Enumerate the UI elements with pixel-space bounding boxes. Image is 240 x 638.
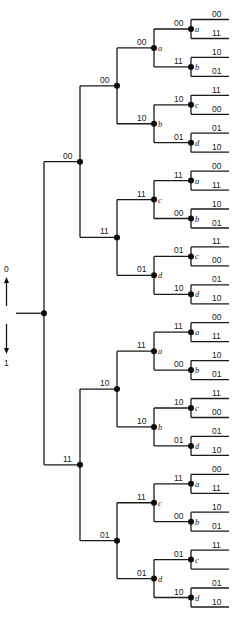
branch-label: 10: [174, 283, 184, 293]
leaf-label: 11: [212, 180, 221, 190]
branch-label: 10: [174, 587, 184, 597]
leaf-label: 01: [212, 426, 222, 436]
root-node: [41, 310, 47, 316]
branch-label: 01: [100, 530, 110, 540]
level4-node: [188, 291, 194, 297]
leaf-label: 10: [212, 597, 222, 607]
branch-label: 00: [174, 359, 184, 369]
state-label: b: [195, 517, 199, 527]
branch-label: 00: [174, 511, 184, 521]
branch-label: 01: [174, 549, 184, 559]
branch-label: 00: [137, 37, 147, 47]
level3-node: [151, 500, 157, 506]
leaf-label: 01: [212, 66, 222, 76]
leaf-label: 01: [212, 369, 222, 379]
level4-node: [188, 367, 194, 373]
down-arrowhead-icon: [4, 348, 9, 354]
leaf-label: 10: [212, 350, 222, 360]
state-label: a: [195, 479, 199, 489]
branch-label: 11: [174, 56, 183, 66]
branch-label: 11: [137, 189, 146, 199]
branch-label: 00: [174, 208, 184, 218]
leaf-label: 00: [212, 9, 222, 19]
leaf-label: 01: [212, 578, 222, 588]
leaf-label: 01: [212, 123, 222, 133]
branch-label: 10: [137, 416, 147, 426]
level1-node: [77, 159, 83, 165]
state-label: d: [195, 289, 200, 299]
branch-label: 00: [100, 75, 110, 85]
level3-node: [151, 197, 157, 203]
level2-node: [114, 386, 120, 392]
branch-label: 11: [63, 454, 72, 464]
state-label: d: [195, 441, 200, 451]
leaf-label: 11: [212, 85, 221, 95]
leaf-label: 00: [212, 407, 222, 417]
branch-label: 10: [100, 378, 110, 388]
level2-node: [114, 234, 120, 240]
state-label: a: [158, 346, 162, 356]
level4-node: [188, 140, 194, 146]
state-label: a: [195, 327, 199, 337]
leaf-label: 00: [212, 161, 222, 171]
level4-node: [188, 329, 194, 335]
level1-node: [77, 462, 83, 468]
leaf-label: 11: [212, 483, 221, 493]
state-label: d: [195, 138, 200, 148]
leaf-label: 11: [212, 236, 221, 246]
state-label: d: [158, 270, 163, 280]
direction-legend: 0 1: [4, 264, 9, 368]
down-branch-label: 1: [4, 358, 9, 368]
branch-label: 01: [174, 132, 184, 142]
state-label: c: [195, 555, 199, 565]
leaf-label: 11: [212, 331, 221, 341]
branch-label: 01: [174, 435, 184, 445]
state-label: a: [158, 43, 162, 53]
level4-node: [188, 64, 194, 70]
level4-node: [188, 253, 194, 259]
leaf-label: 00: [212, 464, 222, 474]
state-label: c: [195, 251, 199, 261]
leaf-label: 10: [212, 142, 222, 152]
level4-node: [188, 443, 194, 449]
state-label: a: [195, 176, 199, 186]
leaf-label: 00: [212, 104, 222, 114]
branch-label: 01: [137, 568, 147, 578]
level4-node: [188, 595, 194, 601]
leaf-label: 10: [212, 445, 222, 455]
leaf-label: 10: [212, 199, 222, 209]
leaf-label: 00: [212, 312, 222, 322]
level4-node: [188, 102, 194, 108]
level4-node: [188, 178, 194, 184]
branch-label: 11: [137, 492, 146, 502]
level3-node: [151, 348, 157, 354]
leaf-label: 01: [212, 521, 222, 531]
state-label: d: [158, 574, 163, 584]
up-arrowhead-icon: [4, 277, 9, 283]
branch-label: 10: [137, 113, 147, 123]
level3-node: [151, 424, 157, 430]
level4-node: [188, 519, 194, 525]
branch-label: 01: [174, 245, 184, 255]
state-label: b: [158, 119, 162, 129]
branch-label: 11: [174, 321, 183, 331]
branch-label: 11: [100, 226, 109, 236]
state-label: c: [195, 403, 199, 413]
leaf-label: 01: [212, 274, 222, 284]
code-tree-diagram: 0011001110010010110111101101abcdabcd00a1…: [0, 0, 240, 638]
level4-node: [188, 557, 194, 563]
state-label: b: [195, 62, 199, 72]
leaf-label: 01: [212, 218, 222, 228]
branch-label: 11: [174, 473, 183, 483]
level4-node: [188, 405, 194, 411]
level2-node: [114, 83, 120, 89]
branch-label: 10: [174, 397, 184, 407]
branch-label: 00: [174, 18, 184, 28]
state-label: d: [195, 593, 200, 603]
state-label: c: [158, 195, 162, 205]
level2-node: [114, 538, 120, 544]
level3-node: [151, 576, 157, 582]
leaf-label: 10: [212, 47, 222, 57]
branch-label: 11: [137, 340, 146, 350]
leaf-label: 00: [212, 255, 222, 265]
